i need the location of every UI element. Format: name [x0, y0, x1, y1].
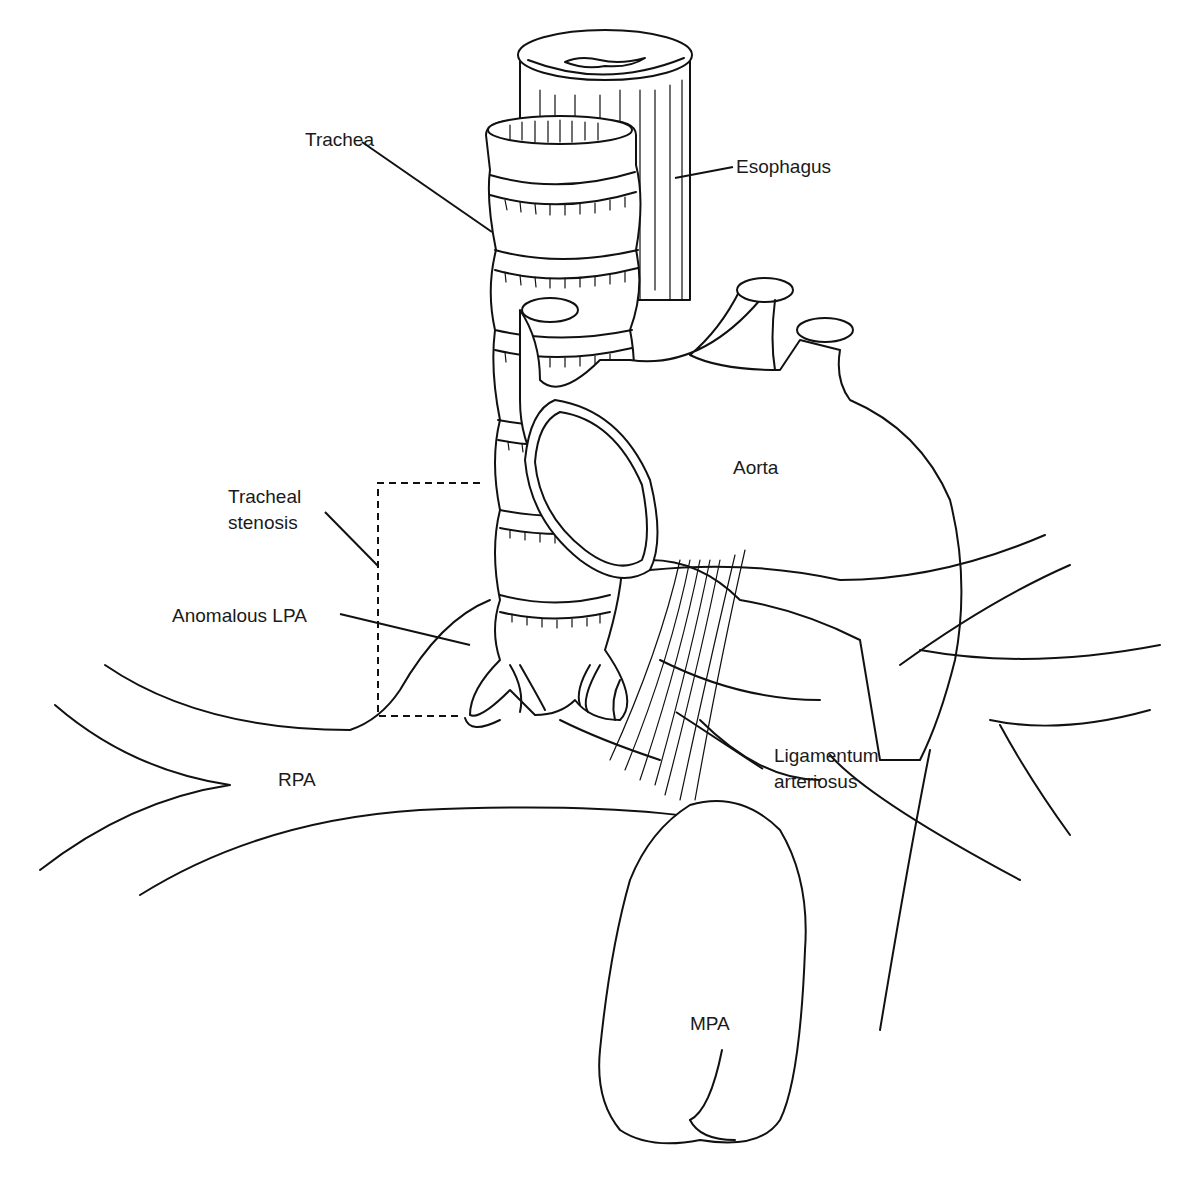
label-rpa: RPA: [278, 769, 316, 790]
leader-trachea: [362, 142, 492, 232]
label-ligamentum-1: Ligamentum: [774, 745, 879, 766]
label-anomalous-lpa: Anomalous LPA: [172, 605, 307, 626]
stenosis-bracket: [378, 483, 480, 716]
anatomy-diagram: Trachea Esophagus Aorta Tracheal stenosi…: [0, 0, 1198, 1182]
label-trachea: Trachea: [305, 129, 374, 150]
label-mpa: MPA: [690, 1013, 730, 1034]
leader-stenosis: [325, 512, 378, 566]
label-esophagus: Esophagus: [736, 156, 831, 177]
label-aorta: Aorta: [733, 457, 779, 478]
label-tracheal-stenosis-1: Tracheal: [228, 486, 301, 507]
label-ligamentum-2: arteriosus: [774, 771, 857, 792]
leader-lpa: [340, 614, 470, 645]
mpa: [599, 801, 806, 1143]
label-tracheal-stenosis-2: stenosis: [228, 512, 298, 533]
